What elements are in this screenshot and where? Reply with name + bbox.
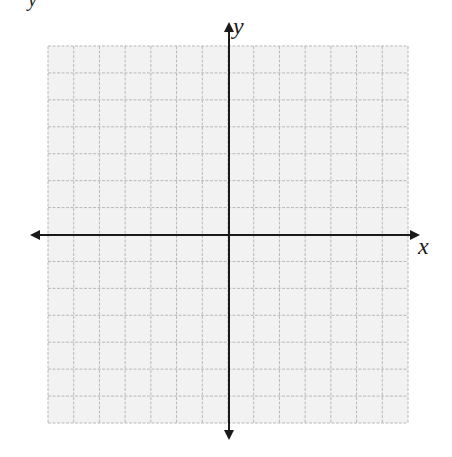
corner-glyph-fragment: y (28, 0, 37, 11)
arrow-left-icon (30, 230, 40, 240)
x-axis-label: x (418, 234, 429, 258)
coordinate-plane (0, 0, 452, 457)
arrow-down-icon (224, 430, 234, 440)
y-axis-label: y (233, 14, 244, 38)
